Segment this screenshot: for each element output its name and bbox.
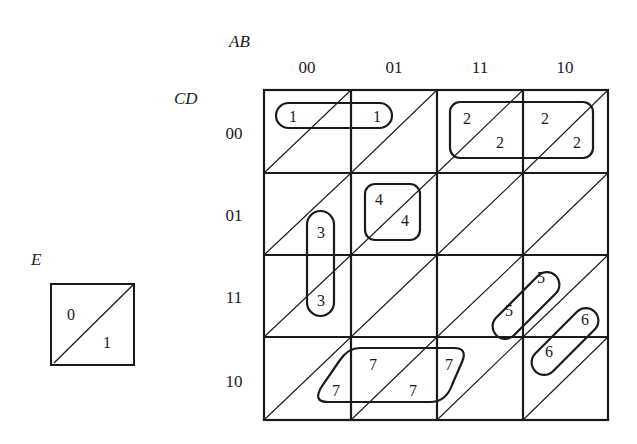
svg-text:7: 7: [369, 356, 377, 373]
svg-text:2: 2: [463, 110, 471, 127]
svg-text:7: 7: [445, 356, 453, 373]
svg-text:2: 2: [573, 134, 581, 151]
group-6-loop: [526, 303, 603, 380]
svg-text:5: 5: [537, 269, 545, 286]
svg-text:6: 6: [545, 343, 553, 360]
col-label-11: 11: [472, 58, 488, 77]
col-variable-label: AB: [228, 32, 250, 51]
svg-text:1: 1: [289, 108, 297, 125]
svg-text:2: 2: [496, 134, 504, 151]
svg-text:5: 5: [505, 302, 513, 319]
row-label-01: 01: [226, 206, 243, 225]
svg-text:3: 3: [317, 292, 325, 309]
svg-text:4: 4: [375, 191, 383, 208]
e-legend: E 0 1: [30, 250, 134, 365]
row-label-00: 00: [226, 124, 243, 143]
row-variable-label: CD: [174, 89, 198, 108]
row-label-11: 11: [226, 288, 242, 307]
svg-text:3: 3: [317, 224, 325, 241]
legend-lower-value: 1: [103, 334, 111, 351]
group-2-loop: [450, 102, 593, 158]
svg-text:7: 7: [409, 382, 417, 399]
svg-text:6: 6: [581, 311, 589, 328]
svg-text:1: 1: [373, 108, 381, 125]
svg-text:7: 7: [332, 382, 340, 399]
svg-text:4: 4: [401, 212, 409, 229]
col-label-10: 10: [557, 58, 574, 77]
legend-upper-value: 0: [67, 306, 75, 323]
row-label-10: 10: [226, 372, 243, 391]
legend-var-label: E: [30, 250, 42, 269]
group-4-loop: [365, 184, 420, 240]
karnaugh-map-diagram: AB CD 00 01 11 10 00 01 11 10 1 1: [0, 0, 637, 444]
col-label-01: 01: [386, 58, 403, 77]
svg-text:2: 2: [541, 110, 549, 127]
col-label-00: 00: [299, 58, 316, 77]
group-7-loop: [318, 348, 464, 402]
